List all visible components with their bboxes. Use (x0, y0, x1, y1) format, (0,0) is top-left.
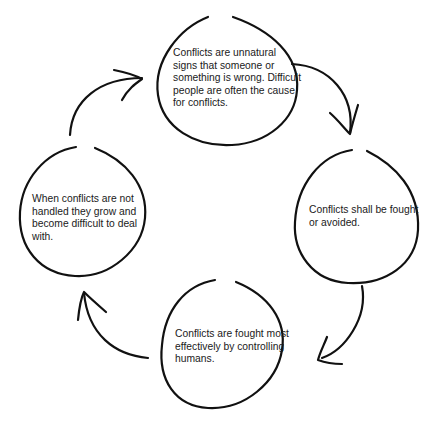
node-text-right: Conflicts shall be fought or avoided. (309, 204, 429, 229)
arrowhead-left-to-top (114, 70, 142, 100)
node-text-bottom: Conflicts are fought most effectively by… (175, 328, 295, 366)
arrow-right-to-bottom (322, 286, 363, 358)
node-text-top: Conflicts are unnatural signs that someo… (173, 47, 301, 110)
arrowhead-top-to-right (330, 105, 358, 134)
node-text-left: When conflicts are not handled they grow… (32, 193, 152, 243)
arrow-bottom-to-left (84, 293, 148, 358)
arrowhead-right-to-bottom (318, 337, 342, 364)
arrowhead-bottom-to-left (78, 292, 106, 320)
